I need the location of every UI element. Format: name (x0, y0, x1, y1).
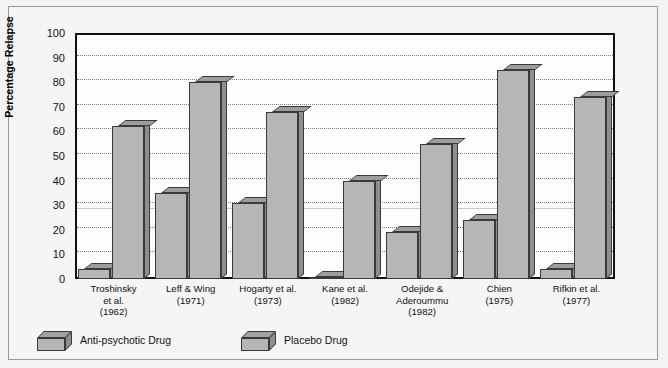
x-category-label-line: (1973) (229, 295, 306, 307)
bar-group (386, 33, 458, 279)
x-category-label-line: Chien (461, 283, 538, 295)
bar-front-face (112, 126, 144, 279)
bar[interactable] (309, 277, 341, 279)
bar-group (155, 33, 227, 279)
x-category-label-line: (1982) (306, 295, 383, 307)
bar-side-face (375, 176, 381, 279)
legend-swatch-face-face (241, 338, 269, 351)
bar-group (309, 33, 381, 279)
bar[interactable] (463, 220, 495, 279)
y-tick-0: 0 (59, 273, 65, 285)
x-category-label: Hogarty et al.(1973) (229, 283, 306, 306)
bar[interactable] (574, 97, 606, 279)
bar[interactable] (497, 70, 529, 279)
x-category-label: Chien(1975) (461, 283, 538, 306)
chart-legend: Anti-psychotic DrugPlacebo Drug (37, 329, 457, 363)
y-tick-50: 50 (53, 150, 65, 162)
bar-front-face (540, 269, 572, 279)
bar[interactable] (78, 269, 110, 279)
x-category-label: Rifkin et al.(1977) (538, 283, 615, 306)
bar-group (232, 33, 304, 279)
x-category-label-line: (1975) (461, 295, 538, 307)
x-category-label-line: Kane et al. (306, 283, 383, 295)
plot-wrapper (75, 33, 615, 279)
legend-swatch-face-face (37, 338, 65, 351)
x-category-label-line: Troshinsky (75, 283, 152, 295)
bar-side-face (221, 77, 227, 279)
bar-group (78, 33, 150, 279)
bar-front-face (497, 70, 529, 279)
y-tick-70: 70 (53, 101, 65, 113)
y-tick-100: 100 (47, 27, 65, 39)
bar-group (463, 33, 535, 279)
bar-front-face (266, 112, 298, 279)
x-category-label-line: Hogarty et al. (229, 283, 306, 295)
x-category-label-line: Leff & Wing (152, 283, 229, 295)
bar[interactable] (343, 181, 375, 279)
y-tick-90: 90 (53, 52, 65, 64)
bar-front-face (420, 144, 452, 279)
x-category-label-line: (1977) (538, 295, 615, 307)
x-category-label-line: (1982) (384, 306, 461, 318)
legend-swatch-icon (37, 329, 71, 351)
y-tick-30: 30 (53, 199, 65, 211)
x-category-label-line: et al. (75, 295, 152, 307)
x-category-label-line: Rifkin et al. (538, 283, 615, 295)
bar[interactable] (232, 203, 264, 279)
bar[interactable] (266, 112, 298, 279)
y-tick-40: 40 (53, 175, 65, 187)
legend-label: Anti-psychotic Drug (80, 334, 171, 346)
legend-item[interactable]: Anti-psychotic Drug (37, 329, 171, 351)
bar-front-face (386, 232, 418, 279)
x-category-label-line: Odejide & (384, 283, 461, 295)
y-axis-tick-labels: 1009080706050403020100 (9, 33, 71, 279)
bar[interactable] (420, 144, 452, 279)
bar[interactable] (386, 232, 418, 279)
x-category-label-line: Aderoummu (384, 295, 461, 307)
bar-side-face (452, 139, 458, 279)
legend-swatch-icon (241, 329, 275, 351)
y-tick-20: 20 (53, 224, 65, 236)
bar[interactable] (155, 193, 187, 279)
x-category-label: Odejide &Aderoummu(1982) (384, 283, 461, 318)
bar[interactable] (112, 126, 144, 279)
bar-side-face (298, 107, 304, 279)
bar-front-face (155, 193, 187, 279)
x-category-label-line: (1962) (75, 306, 152, 318)
bar-front-face (189, 82, 221, 279)
y-tick-10: 10 (53, 248, 65, 260)
bar-front-face (232, 203, 264, 279)
x-category-label: Kane et al.(1982) (306, 283, 383, 306)
legend-item[interactable]: Placebo Drug (241, 329, 348, 351)
x-category-label: Leff & Wing(1971) (152, 283, 229, 306)
chart-outer-frame: Percentage Relapse 100908070605040302010… (8, 6, 658, 360)
bar-side-face (144, 121, 150, 279)
bar-side-face (529, 65, 535, 279)
legend-label: Placebo Drug (284, 334, 348, 346)
chart-figure: Percentage Relapse 100908070605040302010… (0, 0, 668, 368)
x-category-label-line: (1971) (152, 295, 229, 307)
bar[interactable] (540, 269, 572, 279)
bar-front-face (463, 220, 495, 279)
y-tick-60: 60 (53, 125, 65, 137)
y-tick-80: 80 (53, 76, 65, 88)
bar[interactable] (189, 82, 221, 279)
bar-front-face (78, 269, 110, 279)
x-category-label: Troshinskyet al.(1962) (75, 283, 152, 318)
bar-group (540, 33, 612, 279)
bar-front-face (343, 181, 375, 279)
bar-front-face (574, 97, 606, 279)
bar-side-face (606, 92, 612, 279)
x-axis-category-labels: Troshinskyet al.(1962)Leff & Wing(1971)H… (75, 283, 615, 329)
